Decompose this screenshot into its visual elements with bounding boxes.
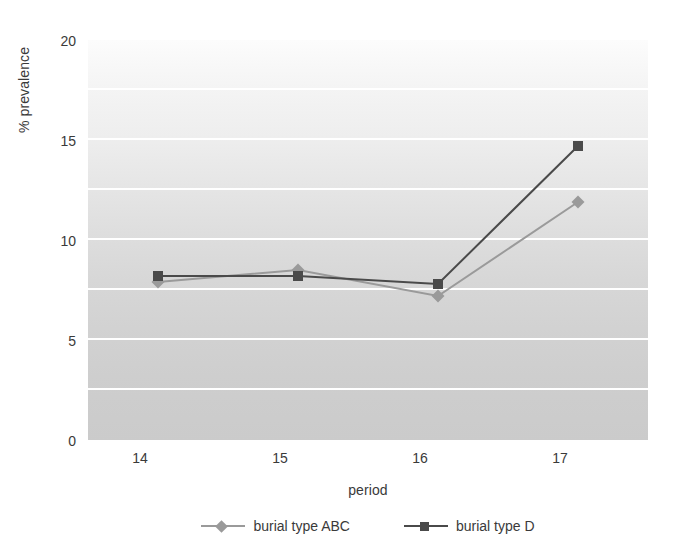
data-point-1-1 xyxy=(293,271,303,281)
data-point-0-2 xyxy=(432,290,445,303)
legend-item-burial-type-abc[interactable]: burial type ABC xyxy=(201,518,350,534)
x-axis-tick-14: 14 xyxy=(110,450,170,466)
series-line-0 xyxy=(158,202,578,296)
legend-label-abc: burial type ABC xyxy=(253,518,350,534)
y-axis-tick-0: 0 xyxy=(30,433,76,449)
x-axis-tick-17: 17 xyxy=(530,450,590,466)
legend-item-burial-type-d[interactable]: burial type D xyxy=(404,518,535,534)
y-axis-tick-20: 20 xyxy=(30,33,76,49)
series-layer xyxy=(88,40,648,440)
data-point-0-3 xyxy=(572,196,585,209)
x-axis-tick-15: 15 xyxy=(250,450,310,466)
chart-legend: burial type ABC burial type D xyxy=(88,518,648,534)
data-point-1-2 xyxy=(433,279,443,289)
y-axis-title: % prevalence xyxy=(16,0,32,190)
plot-area xyxy=(88,40,648,440)
legend-key-d xyxy=(404,519,448,533)
series-line-1 xyxy=(158,146,578,284)
x-axis-title: period xyxy=(88,482,648,498)
x-axis-tick-16: 16 xyxy=(390,450,450,466)
legend-label-d: burial type D xyxy=(456,518,535,534)
y-axis-tick-15: 15 xyxy=(30,133,76,149)
line-chart: % prevalence 20 15 10 5 0 14 15 16 17 pe… xyxy=(0,0,689,551)
data-point-1-0 xyxy=(153,271,163,281)
diamond-marker-icon xyxy=(216,520,229,533)
legend-key-abc xyxy=(201,519,245,533)
y-axis-tick-10: 10 xyxy=(30,233,76,249)
data-point-1-3 xyxy=(573,141,583,151)
y-axis-tick-5: 5 xyxy=(30,333,76,349)
square-marker-icon xyxy=(420,522,429,531)
